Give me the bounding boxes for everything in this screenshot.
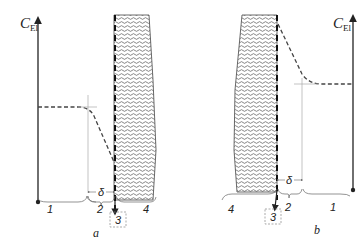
panel-a: CEl δ 1 2 3 4 a (20, 15, 156, 240)
delta-label-b: δ (286, 174, 293, 186)
region-label-3-a: 3 (115, 214, 122, 226)
electrode-region-a (114, 15, 156, 200)
brace-region-1-b (303, 189, 350, 196)
region-label-3-b: 3 (270, 211, 277, 223)
axis-label-a: CEl (20, 15, 39, 33)
region-label-4-b: 4 (228, 203, 234, 215)
panel-caption-b: b (314, 223, 320, 237)
panel-caption-a: a (93, 226, 99, 240)
region-label-2-a: 2 (96, 203, 103, 215)
brace-region-2-b (278, 189, 302, 198)
concentration-profile-a (38, 107, 114, 162)
region-label-4-a: 4 (143, 203, 149, 215)
electrode-region-b (234, 15, 277, 192)
diagram-canvas: CEl δ 1 2 3 4 a CEl (0, 0, 364, 248)
region-label-1-b: 1 (330, 201, 336, 213)
concentration-profile-b (278, 24, 353, 84)
brace-region-1-a (38, 196, 96, 202)
panel-b: CEl δ 4 3 2 1 b (222, 15, 355, 237)
region-label-1-a: 1 (47, 203, 53, 215)
axis-label-b: CEl (333, 15, 352, 33)
axis-origin-dot-b (351, 188, 355, 192)
region-label-2-b: 2 (284, 201, 291, 213)
delta-label-a: δ (98, 186, 105, 198)
